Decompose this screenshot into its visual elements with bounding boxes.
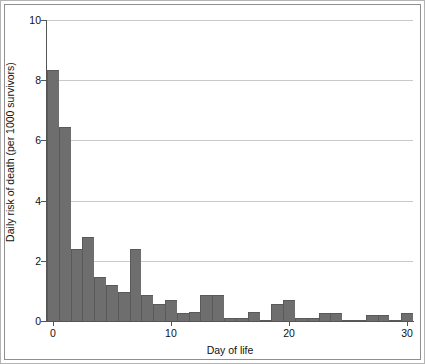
- gridline: [47, 20, 413, 21]
- y-tick: [41, 140, 47, 141]
- y-tick: [41, 20, 47, 21]
- y-tick: [41, 321, 47, 322]
- x-tick-label: 10: [165, 327, 177, 339]
- x-tick-label: 20: [283, 327, 295, 339]
- x-tick: [289, 321, 290, 326]
- bar: [165, 300, 177, 321]
- bar: [212, 295, 224, 321]
- bar: [59, 127, 71, 321]
- gridline: [47, 80, 413, 81]
- bar: [141, 295, 153, 321]
- plot-background: [47, 20, 413, 321]
- gridline: [47, 140, 413, 141]
- bar: [330, 313, 342, 321]
- bar: [106, 285, 118, 321]
- bar: [94, 277, 106, 321]
- y-tick-label: 0: [1, 315, 41, 327]
- bar: [118, 292, 130, 321]
- bar: [82, 237, 94, 321]
- y-tick-label: 6: [1, 134, 41, 146]
- bar: [319, 313, 331, 321]
- bar: [130, 249, 142, 321]
- x-axis-line: [46, 321, 414, 322]
- bar: [401, 313, 413, 321]
- y-tick-label: 8: [1, 74, 41, 86]
- y-tick: [41, 261, 47, 262]
- x-tick: [171, 321, 172, 326]
- bar: [71, 249, 83, 321]
- figure-frame: Daily risk of death (per 1000 survivors)…: [0, 0, 425, 364]
- plot-area: 0246810 0102030 Day of life: [47, 20, 413, 321]
- gridline: [47, 261, 413, 262]
- bar: [248, 312, 260, 321]
- y-tick-label: 10: [1, 14, 41, 26]
- bar: [47, 70, 59, 321]
- y-axis-line: [46, 20, 47, 321]
- x-tick: [53, 321, 54, 326]
- y-tick: [41, 201, 47, 202]
- x-tick: [407, 321, 408, 326]
- bar: [271, 304, 283, 321]
- bar: [153, 304, 165, 321]
- x-tick-label: 0: [50, 327, 56, 339]
- y-tick-label: 4: [1, 195, 41, 207]
- gridline: [47, 201, 413, 202]
- bar: [177, 313, 189, 321]
- y-axis-title-text: Daily risk of death (per 1000 survivors): [4, 62, 16, 242]
- x-tick-label: 30: [401, 327, 413, 339]
- x-axis-title: Day of life: [47, 344, 413, 356]
- y-tick: [41, 80, 47, 81]
- bar: [283, 300, 295, 321]
- y-tick-label: 2: [1, 255, 41, 267]
- bar: [189, 312, 201, 321]
- bar: [200, 295, 212, 321]
